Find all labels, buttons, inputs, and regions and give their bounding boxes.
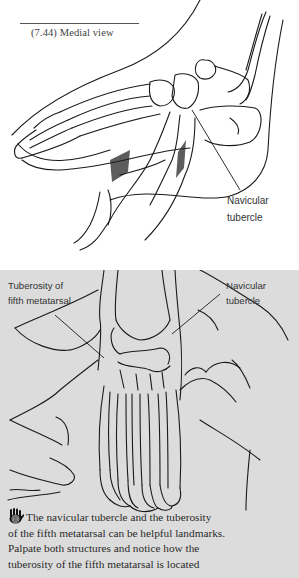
- body-text: The navicular tubercle and the tuberosit…: [8, 508, 298, 572]
- palpation-hand-icon: [8, 508, 25, 524]
- text-line: The navicular tubercle and the tuberosit…: [8, 508, 298, 526]
- figure-caption: (7.44) Medial view: [31, 27, 114, 38]
- label-line: Navicular: [227, 192, 269, 209]
- navicular-tubercle-label: Navicular tubercle: [227, 192, 269, 226]
- tuberosity-fifth-metatarsal-label: Tuberosity of fifth metatarsal: [8, 278, 71, 308]
- label-line: tubercle: [227, 209, 269, 226]
- foot-medial-illustration: [0, 0, 299, 270]
- text-line: Palpate both structures and notice how t…: [8, 541, 298, 557]
- label-line: Tuberosity of: [8, 278, 71, 293]
- caption-rule: [20, 23, 139, 24]
- label-line: tubercle: [226, 293, 266, 308]
- text-line: of the fifth metatarsal can be helpful l…: [8, 526, 298, 542]
- label-line: Navicular: [226, 278, 266, 293]
- label-line: fifth metatarsal: [8, 293, 71, 308]
- figure-medial-view: (7.44) Medial view Navicular tubercle: [0, 0, 299, 270]
- navicular-tubercle-label: Navicular tubercle: [226, 278, 266, 308]
- text-line: tuberosity of the fifth metatarsal is lo…: [8, 557, 298, 573]
